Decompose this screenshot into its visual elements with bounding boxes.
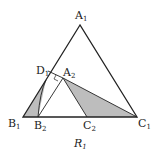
label-b1: B1 (8, 117, 21, 131)
triangle-diagram: A1 D1 A2 B1 B2 C2 C1 R1 (0, 0, 155, 160)
label-a2: A2 (62, 66, 75, 80)
segment-d1-a2 (48, 71, 63, 78)
caption-r1: R1 (73, 137, 87, 151)
label-c1: C1 (138, 117, 151, 131)
right-angle-marker (54, 75, 58, 81)
label-b2: B2 (34, 119, 47, 133)
label-d1: D1 (36, 64, 49, 78)
label-a1: A1 (74, 9, 87, 23)
label-c2: C2 (83, 119, 96, 133)
